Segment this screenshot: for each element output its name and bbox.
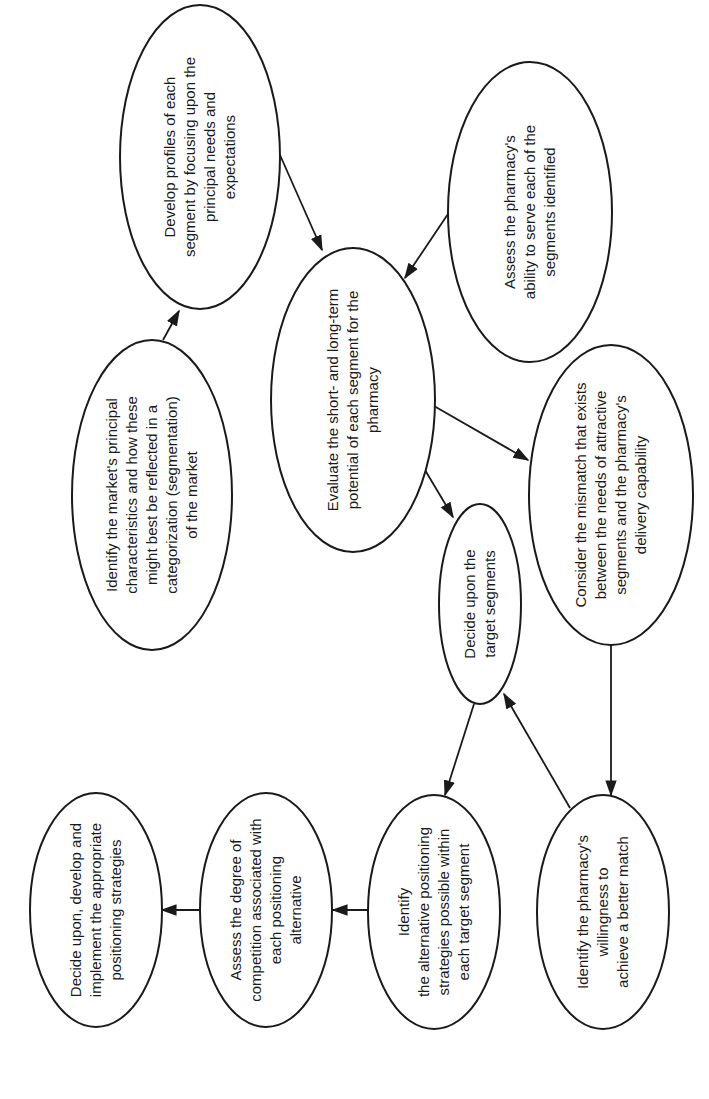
label-identify-willingness: Identify the pharmacy's willingness to a… bbox=[548, 807, 658, 1017]
label-evaluate-potential: Evaluate the short- and long-term potent… bbox=[283, 265, 423, 535]
edge-evaluate-to-decide-target bbox=[425, 470, 453, 517]
label-decide-implement: Decide upon, develop and implement the a… bbox=[41, 805, 151, 1015]
edge-willingness-to-decide-target bbox=[504, 694, 570, 808]
label-develop-profiles: Develop profiles of each segment by focu… bbox=[130, 27, 270, 287]
label-identify-market: Identify the market's principal characte… bbox=[82, 360, 222, 630]
edge-evaluate-to-consider-mismatch bbox=[434, 406, 528, 460]
label-consider-mismatch: Consider the mismatch that exists betwee… bbox=[541, 360, 681, 630]
label-assess-ability: Assess the pharmacy's ability to serve e… bbox=[460, 82, 600, 342]
label-decide-target: Decide upon the target segments bbox=[440, 519, 520, 689]
label-identify-alternatives: Identify the alternative positioning str… bbox=[379, 807, 489, 1017]
edge-develop-profiles-to-evaluate bbox=[280, 155, 322, 250]
label-assess-competition: Assess the degree of competition associa… bbox=[211, 805, 321, 1015]
edge-identify-market-to-develop-profiles bbox=[163, 311, 179, 340]
edge-decide-target-to-alternatives bbox=[445, 704, 474, 795]
